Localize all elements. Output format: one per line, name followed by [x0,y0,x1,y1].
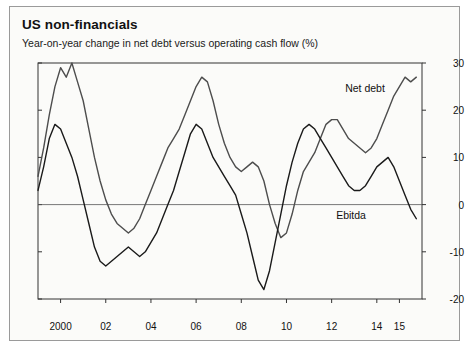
x-axis-tick-label: 04 [145,321,156,332]
line-chart [28,59,432,317]
y-axis-tick-label: -20 [438,294,464,305]
screenshot-root: US non-financials Year-on-year change in… [0,0,467,345]
series-label-ebitda: Ebitda [336,209,366,221]
chart-card: US non-financials Year-on-year change in… [9,6,460,341]
y-axis-tick-label: 20 [438,105,464,116]
x-axis-tick-label: 10 [281,321,292,332]
x-axis-tick-label: 12 [326,321,337,332]
x-axis-tick-label: 2000 [49,321,71,332]
chart-subtitle: Year-on-year change in net debt versus o… [22,37,318,49]
x-axis-tick-label: 08 [236,321,247,332]
y-axis-tick-label: 0 [438,199,464,210]
chart-plot-area: -20-100102030 20000204060810121415 Net d… [28,59,432,317]
series-label-net-debt: Net debt [345,82,385,94]
y-axis-tick-label: -10 [438,246,464,257]
y-axis-tick-label: 10 [438,152,464,163]
x-axis-tick-label: 06 [191,321,202,332]
page-title: US non-financials [22,17,138,32]
x-axis-tick-label: 02 [100,321,111,332]
x-axis-tick-label: 15 [394,321,405,332]
x-axis-tick-label: 14 [371,321,382,332]
y-axis-tick-label: 30 [438,58,464,69]
